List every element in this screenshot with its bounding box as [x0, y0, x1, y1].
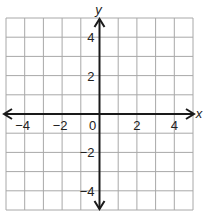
y-tick-label: 4 — [87, 30, 94, 45]
x-tick-label: −2 — [53, 118, 68, 133]
origin-label: 0 — [89, 118, 96, 133]
y-tick-label: 2 — [87, 69, 94, 84]
y-axis-label: y — [94, 2, 103, 17]
x-tick-label: 4 — [171, 118, 178, 133]
x-tick-label: 2 — [133, 118, 140, 133]
y-tick-label: −4 — [80, 184, 95, 199]
x-axis-label: x — [195, 106, 203, 121]
axes — [4, 19, 194, 209]
y-tick-label: −2 — [80, 145, 95, 160]
x-tick-label: −4 — [15, 118, 30, 133]
coordinate-plane: −4−22442−2−40yx — [0, 0, 203, 215]
